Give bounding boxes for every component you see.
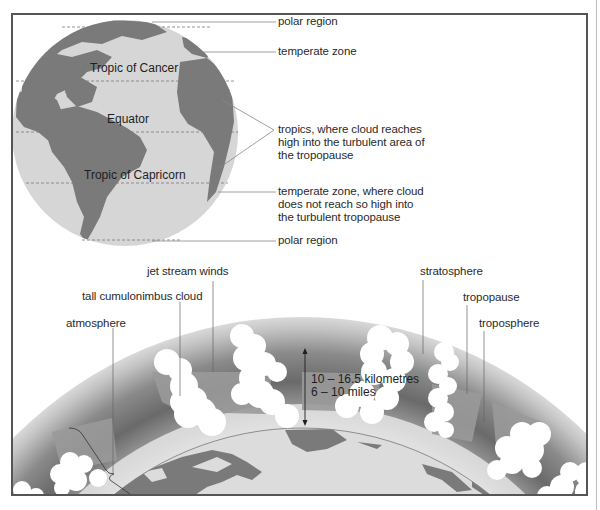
measurement-miles-label: 6 – 10 miles — [311, 386, 376, 399]
tropics-callout: tropics, where cloud reaches high into t… — [278, 123, 428, 162]
tropic-of-capricorn-label: Tropic of Capricorn — [84, 168, 186, 182]
stratosphere-label: stratosphere — [420, 265, 483, 278]
atmosphere-cross-section — [13, 280, 588, 496]
temperate-zone-north-callout: temperate zone — [278, 45, 357, 58]
page-edge — [596, 0, 597, 510]
jet-stream-winds-label: jet stream winds — [147, 265, 228, 278]
globe — [13, 20, 276, 246]
tall-cumulonimbus-cloud-label: tall cumulonimbus cloud — [82, 290, 202, 303]
troposphere-label: troposphere — [479, 317, 539, 330]
temperate-zone-south-callout: temperate zone, where cloud does not rea… — [278, 185, 428, 224]
atmosphere-label: atmosphere — [66, 317, 126, 330]
equator-label: Equator — [107, 112, 149, 126]
polar-region-north-callout: polar region — [278, 15, 338, 28]
polar-region-south-callout: polar region — [278, 234, 338, 247]
diagram-frame: Tropic of Cancer Equator Tropic of Capri… — [11, 13, 588, 496]
diagram-artwork — [13, 15, 588, 496]
tropic-of-cancer-label: Tropic of Cancer — [90, 61, 178, 75]
tropopause-label: tropopause — [463, 291, 520, 304]
